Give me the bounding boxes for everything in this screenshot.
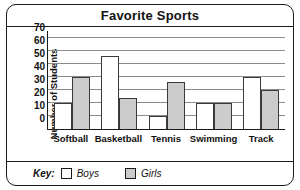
bar-tennis-girls[interactable] <box>167 82 185 129</box>
page-title: Favorite Sports <box>101 8 199 23</box>
x-axis-label-softball: Softball <box>47 133 95 144</box>
legend-entries: BoysGirls <box>61 168 188 179</box>
bar-softball-boys[interactable] <box>54 103 72 129</box>
bar-track-boys[interactable] <box>243 77 261 129</box>
legend-swatch-girls <box>125 168 136 179</box>
bar-groups <box>48 31 285 129</box>
y-axis-tick-50: 50 <box>34 49 45 59</box>
legend-entry-girls[interactable]: Girls <box>125 168 162 179</box>
legend-label-boys: Boys <box>77 168 99 179</box>
x-axis-label-track: Track <box>237 133 285 144</box>
plot-area <box>47 31 285 130</box>
x-axis-tick-labels: SoftballBasketballTennisSwimmingTrack <box>47 133 285 144</box>
legend-entry-boys[interactable]: Boys <box>61 168 99 179</box>
y-axis-tick-20: 20 <box>34 88 45 98</box>
bar-tennis-boys[interactable] <box>149 116 167 129</box>
y-axis-tick-0: 0 <box>39 114 45 124</box>
chart-title-bar: Favorite Sports <box>7 5 293 27</box>
x-axis-label-tennis: Tennis <box>142 133 190 144</box>
bar-swimming-boys[interactable] <box>196 103 214 129</box>
legend-label-girls: Girls <box>141 168 162 179</box>
x-axis-label-swimming: Swimming <box>190 133 238 144</box>
bar-group-softball <box>48 31 95 129</box>
chart-plot-region: Number of Students 010203040506070 Softb… <box>7 27 293 161</box>
bar-basketball-girls[interactable] <box>119 98 137 129</box>
legend-swatch-boys <box>61 168 72 179</box>
y-axis-tick-40: 40 <box>34 62 45 72</box>
bar-track-girls[interactable] <box>261 90 279 129</box>
bar-swimming-girls[interactable] <box>214 103 232 129</box>
bar-group-track <box>238 31 285 129</box>
y-axis-tick-10: 10 <box>34 101 45 111</box>
bar-softball-girls[interactable] <box>72 77 90 129</box>
chart-card: Favorite Sports Number of Students 01020… <box>6 4 294 186</box>
bar-basketball-boys[interactable] <box>101 56 119 129</box>
bar-group-swimming <box>190 31 237 129</box>
bar-group-tennis <box>143 31 190 129</box>
bar-group-basketball <box>95 31 142 129</box>
y-axis-tick-30: 30 <box>34 75 45 85</box>
y-axis-tick-labels: 010203040506070 <box>23 31 45 129</box>
chart-legend: Key: BoysGirls <box>7 161 293 185</box>
x-axis-label-basketball: Basketball <box>95 133 143 144</box>
y-axis-tick-70: 70 <box>34 23 45 33</box>
y-axis-tick-60: 60 <box>34 36 45 46</box>
legend-title: Key: <box>33 168 55 179</box>
